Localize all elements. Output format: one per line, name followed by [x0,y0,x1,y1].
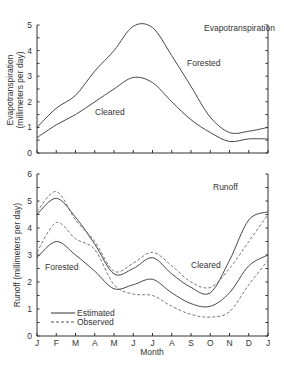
y-tick-label: 1 [27,304,32,314]
bottom-ylabel: Runoff (millimeters per day) [12,203,22,307]
y-tick-label: 4 [27,223,32,233]
top-forested-label: Forested [187,58,221,68]
x-tick-label: D [246,338,252,348]
runoff-chart: 0123456JFMAMJJASONDJ [27,169,270,348]
x-tick-label: J [266,338,270,348]
y-tick-label: 2 [27,97,32,107]
x-tick-label: N [226,338,232,348]
bottom-cleared-label: Cleared [191,260,221,270]
y-tick-label: 1 [27,122,32,132]
y-tick-label: 3 [27,71,32,81]
legend-observed-label: Observed [77,317,114,327]
x-tick-label: F [54,338,59,348]
x-axis-title: Month [140,347,164,357]
legend: Estimated Observed [51,308,115,327]
x-tick-label: M [72,338,79,348]
y-tick-label: 3 [27,250,32,260]
bottom-forested-label: Forested [45,262,79,272]
top-chart-title: Evapotranspiration [204,23,275,33]
y-tick-label: 5 [27,196,32,206]
x-tick-label: J [35,338,39,348]
y-tick-label: 2 [27,277,32,287]
y-tick-label: 0 [27,148,32,158]
bottom-chart-title: Runoff [213,182,239,192]
x-tick-label: J [131,338,135,348]
x-tick-label: A [92,338,98,348]
x-tick-label: M [110,338,117,348]
y-tick-label: 4 [27,46,32,56]
y-tick-label: 0 [27,331,32,341]
x-tick-label: S [188,338,194,348]
x-tick-label: O [207,338,214,348]
series-cleared [37,77,268,141]
y-tick-label: 6 [27,169,32,179]
series-cleared-observed [37,192,268,289]
top-ylabel-line2: (millimeters per day) [15,51,25,128]
y-tick-label: 5 [27,20,32,30]
chart-figure: 012345 0123456JFMAMJJASONDJ Evapotranspi… [0,0,284,368]
evapotranspiration-chart: 012345 [27,20,268,158]
top-cleared-label: Cleared [95,107,125,117]
series-cleared-estimated [37,198,268,294]
top-ylabel-line1: Evapotranspiration [5,54,15,125]
x-tick-label: A [169,338,175,348]
